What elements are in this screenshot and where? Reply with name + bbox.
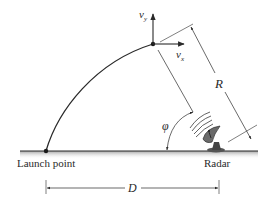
r-dimension-line-lower (225, 92, 251, 139)
phi-angle-arc (167, 112, 193, 150)
trajectory-curve (46, 44, 153, 151)
launch-point-dot (44, 149, 48, 153)
r-extension-bottom (228, 125, 257, 142)
vx-label: vx (176, 48, 185, 63)
projectile-radar-diagram: vy vx R φ Launch point Radar D (0, 0, 272, 221)
r-extension-top (160, 24, 193, 42)
phi-label: φ (162, 119, 169, 133)
r-dimension-line-upper (191, 27, 215, 73)
radar-dish-icon (203, 126, 225, 153)
radar-label: Radar (204, 157, 231, 169)
d-label: D (127, 181, 137, 195)
vy-label: vy (139, 8, 148, 23)
launch-point-label: Launch point (17, 157, 75, 169)
r-label: R (214, 76, 223, 91)
